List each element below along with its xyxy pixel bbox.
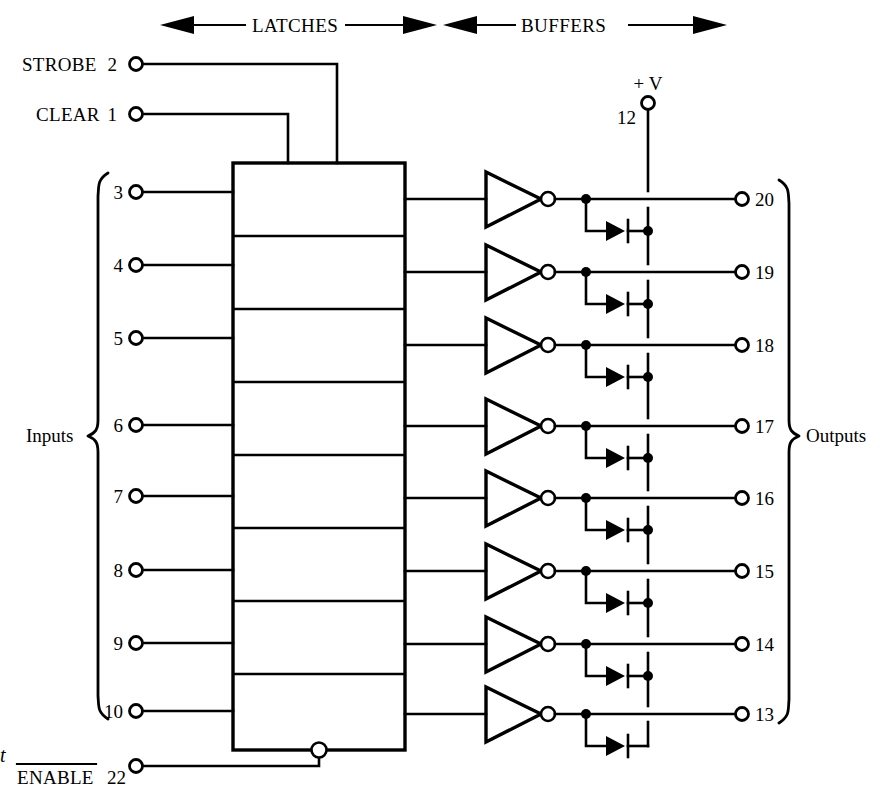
input-wires [143,192,233,711]
input-terminal-5[interactable] [130,332,143,345]
input-terminal-7[interactable] [130,490,143,503]
input-terminal-6[interactable] [130,419,143,432]
inputs-brace [88,173,108,719]
enable-wire [143,758,319,766]
latches-left-arrowhead [160,16,194,34]
output-terminal-17[interactable] [736,420,749,433]
schematic-diagram: LATCHES BUFFERS STROBE 2 CLEAR 1 t ENABL… [0,0,881,808]
supply-pin-number: 12 [617,107,636,128]
output-pin-label-13: 13 [755,704,774,725]
diode-body-5 [606,520,625,540]
output-terminal-20[interactable] [736,193,749,206]
outputs-group-label: Outputs [806,425,866,446]
diode-body-7 [606,666,625,686]
strobe-label: STROBE [22,54,97,75]
output-pin-label-16: 16 [755,488,774,509]
input-pin-label-6: 6 [114,415,124,436]
clear-wire [143,114,288,163]
enable-label: ENABLE [17,767,94,788]
output-terminals[interactable] [736,193,749,721]
diode-body-8 [606,736,625,756]
output-pin-label-20: 20 [755,189,774,210]
supply-terminal[interactable] [642,97,655,110]
output-pin-label-18: 18 [755,335,774,356]
output-terminal-13[interactable] [736,708,749,721]
diode-body-6 [606,593,625,613]
clear-pin-number: 1 [108,104,118,125]
clamp-diodes [606,220,648,757]
enable-terminal[interactable] [130,760,143,773]
output-pin-label-15: 15 [755,561,774,582]
clear-label: CLEAR [36,104,100,125]
input-terminal-3[interactable] [130,186,143,199]
input-terminal-10[interactable] [130,705,143,718]
input-pin-label-3: 3 [114,182,124,203]
section-label-latches: LATCHES [252,15,338,36]
input-pin-label-5: 5 [114,328,124,349]
diode-body-4 [606,448,625,468]
enable-pin-number: 22 [107,767,126,788]
latch-to-buffer-wires [405,199,486,714]
input-terminal-9[interactable] [130,637,143,650]
input-pin-label-10: 10 [104,701,123,722]
inputs-group-label: Inputs [26,425,74,446]
strobe-pin-number: 2 [108,54,118,75]
buffers-left-arrowhead [443,16,477,34]
output-terminal-19[interactable] [736,266,749,279]
output-terminal-18[interactable] [736,339,749,352]
enable-bubble [312,743,327,758]
input-terminal-4[interactable] [130,259,143,272]
output-terminal-15[interactable] [736,565,749,578]
diode-branches [586,199,606,746]
diode-body-2 [606,294,625,314]
input-terminal-8[interactable] [130,564,143,577]
latch-box [233,163,405,750]
input-pin-label-4: 4 [114,255,124,276]
input-terminals[interactable] [130,186,143,718]
output-terminal-14[interactable] [736,638,749,651]
schematic-canvas: LATCHES BUFFERS STROBE 2 CLEAR 1 t ENABL… [0,0,881,808]
output-pin-label-17: 17 [755,416,774,437]
input-pin-label-9: 9 [114,633,124,654]
section-label-buffers: BUFFERS [521,15,606,36]
buffer-inverters [486,172,555,742]
input-pin-label-8: 8 [114,560,124,581]
buffers-right-arrowhead [693,16,727,34]
input-pin-label-7: 7 [114,486,124,507]
stray-text-fragment: t [0,744,6,766]
clear-terminal[interactable] [130,108,143,121]
latches-right-arrowhead [403,16,437,34]
output-pin-label-14: 14 [755,634,775,655]
diode-body-3 [606,367,625,387]
output-terminal-16[interactable] [736,492,749,505]
outputs-brace [779,180,799,723]
latch-cell-dividers [233,236,405,674]
output-pin-label-19: 19 [755,262,774,283]
diode-body-1 [606,221,625,241]
supply-label: + V [634,73,663,94]
strobe-terminal[interactable] [130,58,143,71]
